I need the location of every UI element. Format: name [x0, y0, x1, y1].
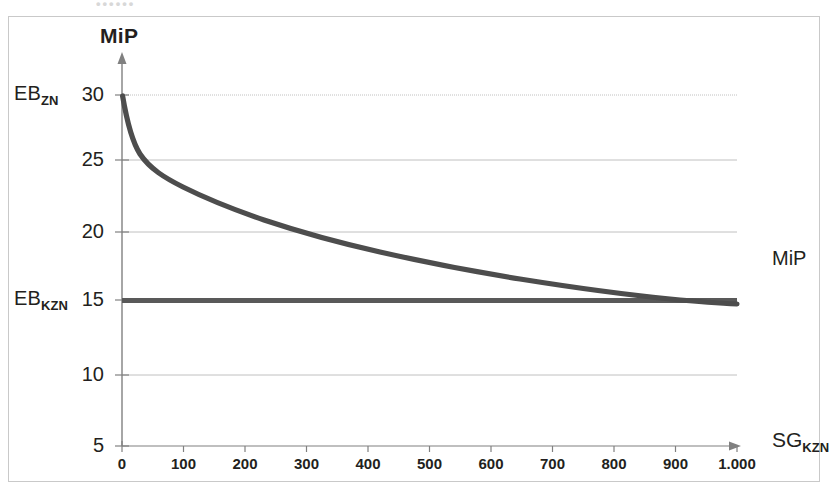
x-tick-label-0: 0 — [92, 455, 152, 472]
x-tick-label-100: 100 — [154, 455, 214, 472]
y-axis-title: MiP — [100, 24, 138, 48]
x-tick-label-200: 200 — [215, 455, 275, 472]
annotation-eb-zn: EBZN — [14, 82, 58, 108]
x-tick-label-900: 900 — [646, 455, 706, 472]
x-tick-label-700: 700 — [523, 455, 583, 472]
chart-page: •••••• — [0, 0, 830, 482]
annotation-eb-kzn: EBKZN — [14, 287, 68, 313]
annotation-eb-kzn-base: EB — [14, 287, 41, 309]
x-tick-label-300: 300 — [277, 455, 337, 472]
x-tick-label-500: 500 — [400, 455, 460, 472]
y-tick-label-25: 25 — [62, 148, 104, 171]
y-tick-label-10: 10 — [62, 363, 104, 386]
gridlines — [122, 95, 737, 375]
x-tick-label-1000: 1.000 — [707, 455, 767, 472]
x-axis-title-base: SG — [772, 428, 802, 451]
y-axis-arrow-icon — [118, 52, 127, 64]
chart-plot-area — [0, 0, 830, 482]
x-axis-arrow-icon — [729, 442, 741, 451]
series-label-mip: MiP — [772, 247, 806, 270]
y-tick-label-20: 20 — [62, 220, 104, 243]
x-tick-label-600: 600 — [461, 455, 521, 472]
x-tick-label-400: 400 — [338, 455, 398, 472]
x-axis-title: SGKZN — [772, 428, 829, 455]
y-tick-label-5: 5 — [62, 434, 104, 457]
annotation-eb-zn-base: EB — [14, 82, 41, 104]
series-curve-mip — [123, 96, 737, 304]
y-tick-label-30: 30 — [62, 83, 104, 106]
x-axis-title-subscript: KZN — [802, 440, 829, 455]
annotation-eb-zn-subscript: ZN — [41, 93, 58, 108]
x-tick-label-800: 800 — [584, 455, 644, 472]
y-tick-label-15: 15 — [62, 288, 104, 311]
